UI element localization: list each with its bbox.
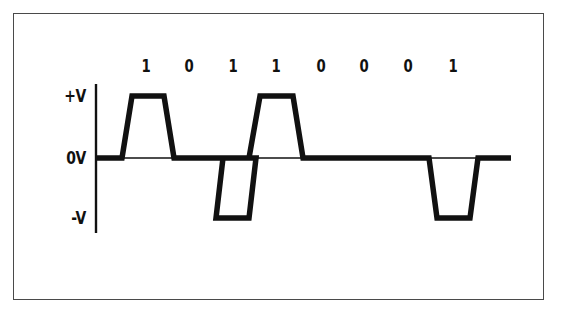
bit-label-6: 0 [400, 56, 416, 76]
bit-label-0: 1 [138, 56, 154, 76]
bit-label-3: 1 [268, 56, 284, 76]
bit-label-2: 1 [225, 56, 241, 76]
bit-label-1: 0 [181, 56, 197, 76]
figure-border: +V 0V -V 1 0 1 1 0 0 0 1 [13, 13, 544, 300]
axis-label-minus-v: -V [35, 208, 86, 228]
figure-canvas: +V 0V -V 1 0 1 1 0 0 0 1 [0, 0, 564, 315]
axis-label-zero-v: 0V [35, 148, 86, 168]
bit-label-5: 0 [356, 56, 372, 76]
axis-label-plus-v: +V [35, 86, 86, 106]
bit-label-4: 0 [313, 56, 329, 76]
ami-waveform-trace [96, 96, 511, 218]
bit-label-7: 1 [445, 56, 461, 76]
